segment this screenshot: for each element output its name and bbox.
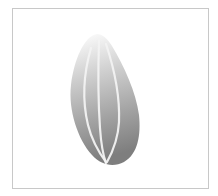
seed-icon bbox=[70, 34, 139, 165]
seed-body bbox=[70, 34, 139, 165]
seed-illustration bbox=[0, 0, 218, 196]
